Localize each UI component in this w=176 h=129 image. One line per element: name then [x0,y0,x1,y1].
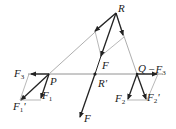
arrow-F2-prime [137,74,146,99]
label-F-bottom: F [84,113,91,124]
arrow-F2 [128,74,137,99]
label-F-top: F [102,60,109,71]
force-diagram: R F R' F P F3 F1 F1' Q −F3 F2 F2' [0,0,176,129]
label-neg-F3: −F3 [148,64,166,77]
construction-line-1 [95,31,101,56]
label-R: R [118,3,125,14]
line-of-action-F [95,56,101,74]
label-F2-prime: F2' [147,92,160,105]
arrow-R-right [116,13,123,35]
label-Q: Q [138,63,146,74]
label-F3: F3 [14,68,24,81]
label-P: P [50,76,57,87]
label-F1-prime: F1' [13,101,26,114]
label-F1: F1 [42,90,52,103]
label-F2: F2 [115,93,125,106]
arrow-F-bottom [80,74,95,117]
label-R-prime: R' [98,78,107,89]
